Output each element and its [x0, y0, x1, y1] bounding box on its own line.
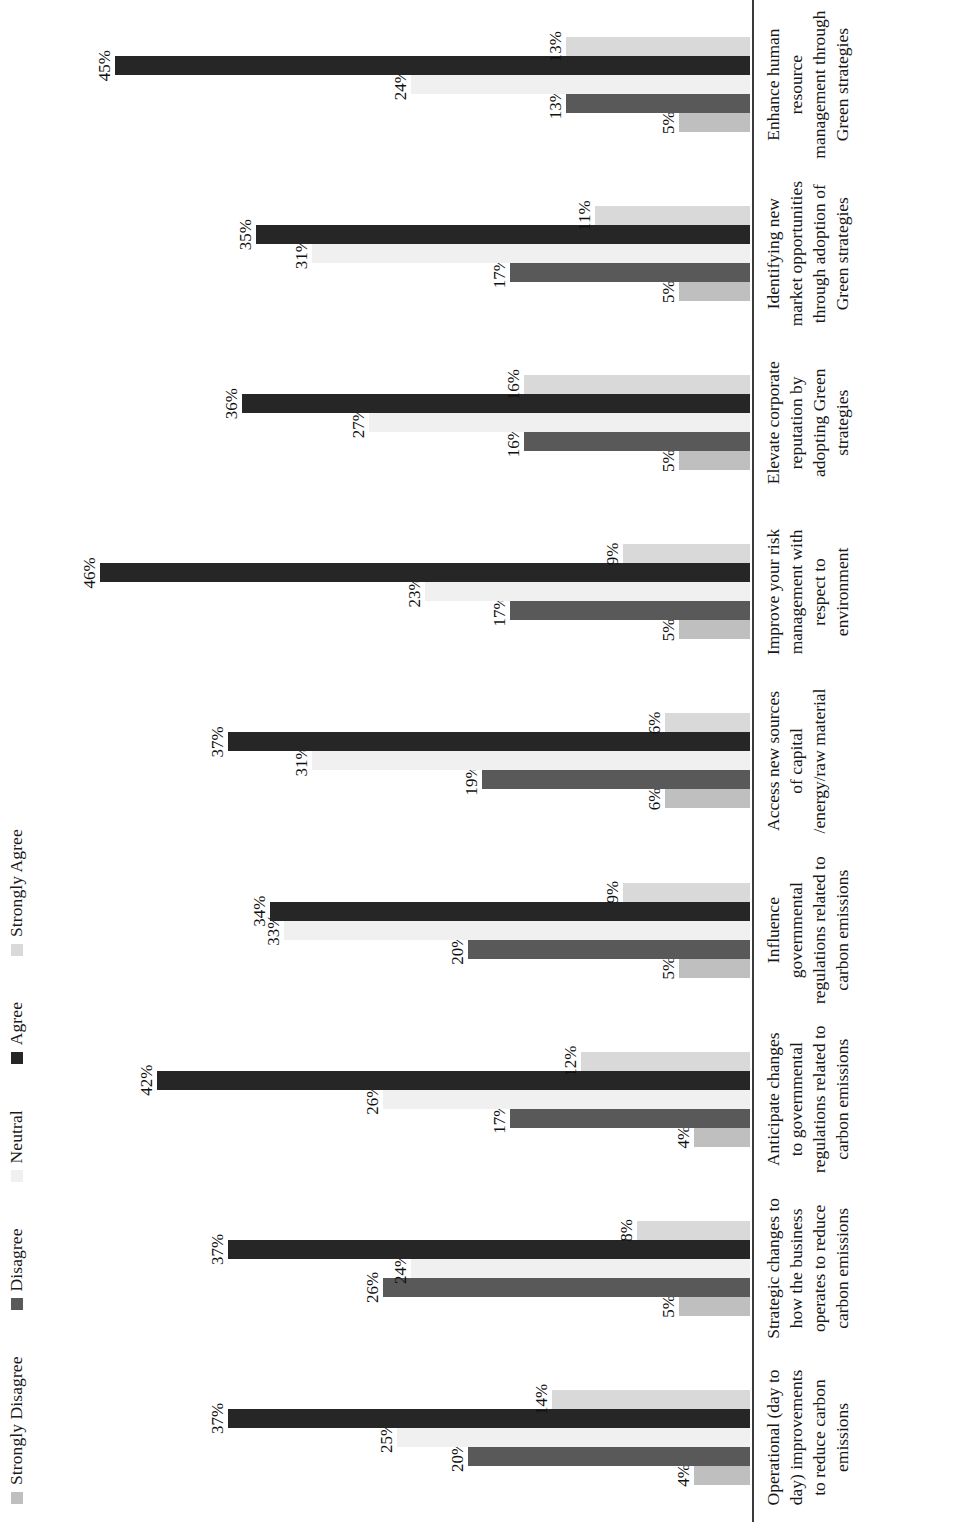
bar-slot: 31% — [44, 752, 750, 771]
bar[interactable] — [623, 883, 750, 902]
bar-value-label: 5% — [660, 957, 677, 980]
bar-value-label: 9% — [604, 543, 621, 566]
bar-value-label: 4% — [675, 1464, 692, 1487]
chart-page: Strongly DisagreeDisagreeNeutralAgreeStr… — [0, 0, 963, 1522]
bar[interactable] — [482, 771, 750, 790]
category-label: Strategic changes to how the business op… — [762, 1193, 854, 1343]
bar-slot: 20% — [44, 940, 750, 959]
bar-slot: 19% — [44, 771, 750, 790]
bar[interactable] — [665, 790, 750, 809]
bar-slot: 37% — [44, 1240, 750, 1259]
bar[interactable] — [157, 1071, 750, 1090]
bar-slot: 35% — [44, 225, 750, 244]
bar-slot: 12% — [44, 1052, 750, 1071]
bar-group: 5%13%24%45%13% — [44, 10, 750, 160]
bar-value-label: 9% — [604, 881, 621, 904]
bar[interactable] — [679, 959, 750, 978]
bar[interactable] — [100, 563, 750, 582]
bar[interactable] — [566, 94, 750, 113]
bar-value-label: 13% — [547, 31, 564, 62]
bar[interactable] — [270, 902, 750, 921]
bar[interactable] — [679, 282, 750, 301]
bar-slot: 5% — [44, 1297, 750, 1316]
bar-slot: 46% — [44, 563, 750, 582]
bar-slot: 11% — [44, 206, 750, 225]
bar-slot: 5% — [44, 282, 750, 301]
bar-slot: 33% — [44, 921, 750, 940]
bar[interactable] — [552, 1390, 750, 1409]
bar[interactable] — [468, 940, 750, 959]
bar[interactable] — [383, 1090, 750, 1109]
rotated-chart-wrapper: Strongly DisagreeDisagreeNeutralAgreeStr… — [0, 0, 963, 1522]
bar[interactable] — [679, 451, 750, 470]
bar-value-label: 8% — [618, 1219, 635, 1242]
legend-item-label: Strongly Agree — [8, 829, 26, 937]
bar[interactable] — [228, 1240, 750, 1259]
bar[interactable] — [566, 37, 750, 56]
legend-swatch-icon — [11, 1492, 23, 1504]
bar-slot: 14% — [44, 1390, 750, 1409]
category-label: Elevate corporate reputation by adopting… — [762, 348, 854, 498]
bar-slot: 31% — [44, 244, 750, 263]
bar-value-label: 5% — [660, 449, 677, 472]
bar-slot: 25% — [44, 1428, 750, 1447]
bar[interactable] — [284, 921, 750, 940]
bar[interactable] — [256, 225, 750, 244]
bar[interactable] — [397, 1428, 750, 1447]
bar[interactable] — [694, 1128, 750, 1147]
legend-swatch-icon — [11, 944, 23, 956]
bar[interactable] — [369, 413, 750, 432]
bar[interactable] — [581, 1052, 750, 1071]
bar[interactable] — [242, 394, 750, 413]
legend-item[interactable]: Strongly Disagree — [8, 1356, 26, 1504]
bar[interactable] — [665, 714, 750, 733]
category-label: Operational (day to day) improvements to… — [762, 1362, 854, 1512]
bar[interactable] — [637, 1221, 750, 1240]
bar[interactable] — [312, 244, 750, 263]
bar[interactable] — [510, 263, 750, 282]
bar-slot: 45% — [44, 56, 750, 75]
bar-slot: 24% — [44, 75, 750, 94]
legend-item[interactable]: Disagree — [8, 1228, 26, 1310]
bar[interactable] — [468, 1447, 750, 1466]
bar-group: 5%20%33%34%9% — [44, 855, 750, 1005]
legend-item-label: Neutral — [8, 1110, 26, 1163]
bar-slot: 17% — [44, 263, 750, 282]
bar[interactable] — [679, 113, 750, 132]
bar[interactable] — [679, 1297, 750, 1316]
bar[interactable] — [425, 582, 750, 601]
bar[interactable] — [411, 75, 750, 94]
legend-swatch-icon — [11, 1052, 23, 1064]
bar[interactable] — [679, 620, 750, 639]
bar[interactable] — [411, 1259, 750, 1278]
bar-slot: 42% — [44, 1071, 750, 1090]
bar-slot: 17% — [44, 1109, 750, 1128]
bar-value-label: 14% — [533, 1384, 550, 1415]
bar[interactable] — [228, 733, 750, 752]
bar[interactable] — [510, 601, 750, 620]
bar-group: 5%16%27%36%16% — [44, 348, 750, 498]
legend-item[interactable]: Neutral — [8, 1110, 26, 1182]
bar[interactable] — [228, 1409, 750, 1428]
bar[interactable] — [312, 752, 750, 771]
bar-value-label: 4% — [675, 1126, 692, 1149]
bar[interactable] — [524, 375, 750, 394]
bar[interactable] — [595, 206, 750, 225]
bar-group: 6%19%31%37%6% — [44, 686, 750, 836]
bar[interactable] — [383, 1278, 750, 1297]
bar-slot: 36% — [44, 394, 750, 413]
legend-item[interactable]: Strongly Agree — [8, 829, 26, 956]
bar[interactable] — [694, 1466, 750, 1485]
bar[interactable] — [524, 432, 750, 451]
bar[interactable] — [115, 56, 750, 75]
legend-item[interactable]: Agree — [8, 1002, 26, 1064]
bar-group: 5%26%24%37%8% — [44, 1193, 750, 1343]
chart-canvas: Strongly DisagreeDisagreeNeutralAgreeStr… — [0, 0, 963, 1522]
chart-legend: Strongly DisagreeDisagreeNeutralAgreeStr… — [4, 829, 30, 1504]
bar-slot: 5% — [44, 620, 750, 639]
bar-value-label: 6% — [646, 788, 663, 811]
bar[interactable] — [623, 544, 750, 563]
bar-value-label: 5% — [660, 1295, 677, 1318]
bar-value-label: 5% — [660, 619, 677, 642]
bar[interactable] — [510, 1109, 750, 1128]
